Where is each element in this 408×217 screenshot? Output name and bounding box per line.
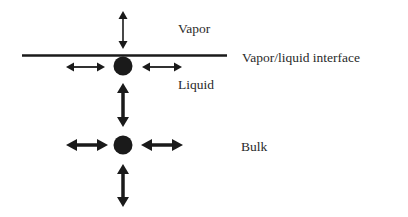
double-arrow-icon xyxy=(66,63,105,72)
interface-label: Vapor/liquid interface xyxy=(242,51,360,65)
diagram-canvas: Vapor Vapor/liquid interface Liquid Bulk xyxy=(0,0,408,217)
liquid-label: Liquid xyxy=(178,78,214,92)
bulk-molecule xyxy=(114,136,133,155)
vapor-label: Vapor xyxy=(178,22,210,36)
double-arrow-icon xyxy=(117,164,129,207)
double-arrow-icon xyxy=(141,139,183,151)
double-arrow-icon xyxy=(142,63,182,72)
bulk-label: Bulk xyxy=(241,140,267,154)
surface-molecule xyxy=(114,57,133,76)
double-arrow-icon xyxy=(66,139,108,151)
double-arrow-icon xyxy=(119,11,128,49)
double-arrow-icon xyxy=(117,83,129,127)
